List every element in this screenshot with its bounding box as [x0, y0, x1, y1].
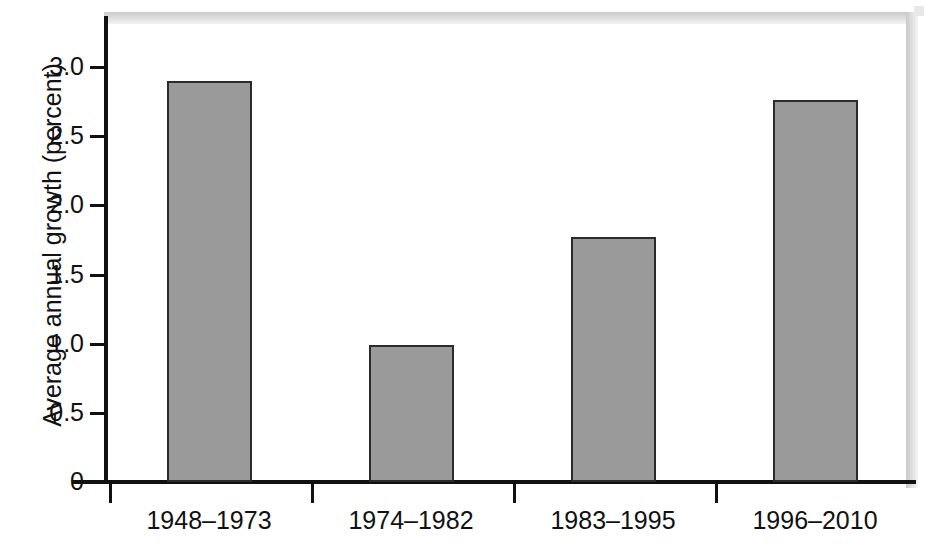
y-axis-tick-label: 1.0 — [6, 331, 84, 356]
bar — [167, 81, 252, 482]
y-axis-tick-label-wrap: 0 — [0, 469, 84, 494]
y-axis-tick-label-wrap: 3.0 — [0, 54, 84, 79]
y-axis-tick-label-wrap: 2.0 — [0, 192, 84, 217]
y-axis-tick-label: 2.5 — [6, 123, 84, 148]
x-axis-category-label: 1948–1973 — [108, 506, 310, 534]
scan-shadow-corner — [914, 6, 924, 16]
y-axis-tick-label-wrap: 2.5 — [0, 123, 84, 148]
y-axis-tick-label: 0 — [6, 469, 84, 494]
bar — [571, 237, 656, 482]
bar — [773, 100, 858, 482]
y-axis-tick — [90, 343, 105, 346]
x-axis-category-label: 1974–1982 — [310, 506, 512, 534]
y-axis-tick-label-wrap: 1.5 — [0, 262, 84, 287]
y-axis-tick — [90, 274, 105, 277]
plot-area — [108, 16, 916, 482]
y-axis-tick — [90, 66, 105, 69]
bar — [369, 345, 454, 482]
y-axis-tick-label-wrap: 1.0 — [0, 331, 84, 356]
x-axis-tick — [715, 484, 718, 503]
y-axis-tick-label-wrap: 0.5 — [0, 400, 84, 425]
y-axis-tick-label: 2.0 — [6, 192, 84, 217]
y-axis-tick — [90, 135, 105, 138]
x-axis-category-label: 1983–1995 — [512, 506, 714, 534]
x-axis-tick — [513, 484, 516, 503]
y-axis-tick-label: 0.5 — [6, 400, 84, 425]
y-axis-tick — [90, 204, 105, 207]
bar-chart-figure: Average annual growth (percent) 00.51.01… — [0, 0, 926, 544]
x-axis-category-label: 1996–2010 — [714, 506, 916, 534]
y-axis-tick — [90, 412, 105, 415]
x-axis-tick — [311, 484, 314, 503]
y-axis-tick-label: 3.0 — [6, 54, 84, 79]
x-axis-tick — [109, 484, 112, 503]
y-axis-tick-label: 1.5 — [6, 262, 84, 287]
